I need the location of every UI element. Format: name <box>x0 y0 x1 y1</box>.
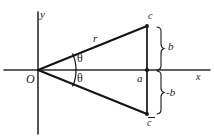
brace-minus-b-icon <box>157 71 164 114</box>
ray-to-c-conjugate <box>38 70 147 114</box>
brace-b-icon <box>157 27 164 70</box>
radius-label: r <box>93 33 97 44</box>
conjugate-overbar-icon <box>148 117 155 118</box>
y-axis-label: y <box>40 9 45 20</box>
theta-upper-label: θ <box>77 52 83 64</box>
point-a-dot <box>145 68 149 72</box>
brace-minus-b-label: -b <box>166 87 175 98</box>
brace-b-label: b <box>168 41 174 52</box>
point-a-label: a <box>137 73 143 84</box>
point-c-label: c <box>148 11 152 21</box>
complex-conjugate-diagram <box>0 0 214 139</box>
point-c-conjugate-dot <box>145 112 149 116</box>
point-c-conjugate-label: c <box>147 118 151 128</box>
theta-lower-label: θ <box>77 72 83 84</box>
x-axis-label: x <box>196 72 200 82</box>
point-c-dot <box>145 24 149 28</box>
origin-label: O <box>26 73 35 85</box>
